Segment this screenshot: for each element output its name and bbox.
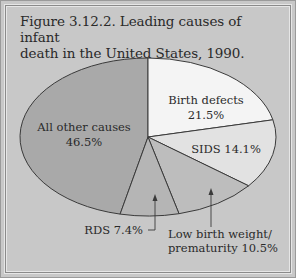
label-lbw-line-2: prematurity 10.5% bbox=[168, 241, 278, 255]
label-sids: SIDS 14.1% bbox=[191, 142, 261, 156]
lbw-callout-arrow bbox=[209, 188, 214, 227]
pie-chart: Birth defects 21.5% SIDS 14.1% All other… bbox=[1, 1, 296, 278]
label-all-other-name: All other causes bbox=[36, 120, 131, 134]
label-rds: RDS 7.4% bbox=[84, 223, 143, 237]
label-birth-defects-name: Birth defects bbox=[168, 93, 244, 107]
label-birth-defects-value: 21.5% bbox=[188, 108, 225, 122]
label-lbw-line-1: Low birth weight/ bbox=[168, 227, 272, 241]
figure-frame: Figure 3.12.2. Leading causes of infant … bbox=[0, 0, 296, 278]
label-all-other-value: 46.5% bbox=[66, 135, 103, 149]
